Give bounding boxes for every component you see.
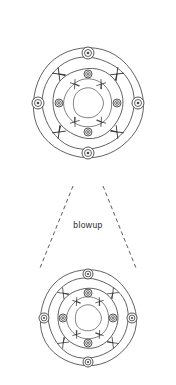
bolt-hole-center-dot bbox=[58, 102, 60, 104]
bolt-hole-center-dot bbox=[87, 292, 89, 294]
bolt-hole-center-dot bbox=[137, 102, 140, 105]
bolt-hole-center-dot bbox=[37, 102, 40, 105]
hatch-mark bbox=[111, 68, 124, 81]
bolt-hole-center-dot bbox=[116, 102, 118, 104]
blowup-label: blowup bbox=[73, 220, 102, 230]
ring-circle bbox=[33, 48, 143, 158]
bolt-hole-center-dot bbox=[87, 52, 90, 55]
bolt-hole-center-dot bbox=[87, 273, 89, 275]
bolt-hole-center-dot bbox=[87, 131, 89, 133]
bolt-hole-center-dot bbox=[87, 152, 90, 155]
technical-drawing-figure: cut off header text blowup bbox=[0, 0, 176, 385]
bolt-hole-center-dot bbox=[43, 317, 45, 319]
bolt-hole-center-dot bbox=[87, 361, 89, 363]
hatch-mark bbox=[107, 288, 118, 299]
ring-circle bbox=[64, 79, 112, 127]
blowup-view-group bbox=[39, 269, 137, 367]
bolt-hole-center-dot bbox=[87, 342, 89, 344]
ring-circle bbox=[40, 270, 136, 366]
bolt-hole-center-dot bbox=[112, 317, 114, 319]
bolt-hole-center-dot bbox=[131, 317, 133, 319]
ring-circle bbox=[75, 305, 101, 331]
ring-circle bbox=[73, 88, 103, 118]
leader-line bbox=[103, 186, 136, 268]
ring-circle bbox=[67, 297, 109, 339]
bolt-hole-center-dot bbox=[62, 317, 64, 319]
figure-canvas: blowup bbox=[0, 0, 176, 385]
leader-line bbox=[40, 186, 73, 268]
main-view-group bbox=[32, 47, 144, 159]
clipped-header-text: cut off header text bbox=[0, 0, 176, 4]
hatch-mark bbox=[70, 117, 79, 126]
bolt-hole-center-dot bbox=[87, 73, 89, 75]
hatch-mark bbox=[53, 68, 66, 81]
